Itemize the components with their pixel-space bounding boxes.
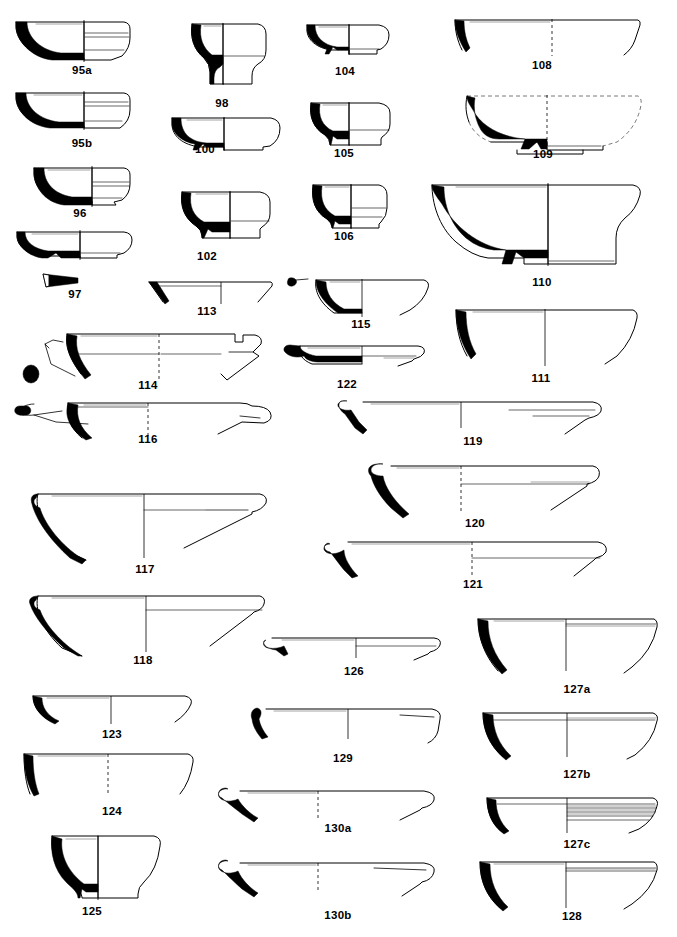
vessel-drawing-110	[428, 180, 644, 274]
vessel-drawing-105	[303, 100, 393, 152]
caption-95b: 95b	[52, 137, 112, 149]
caption-110: 110	[512, 276, 572, 288]
vessel-drawing-122	[276, 340, 428, 372]
caption-122: 122	[317, 378, 377, 390]
vessel-drawing-127a	[474, 613, 660, 679]
vessel-drawing-104	[303, 22, 391, 60]
caption-126: 126	[324, 665, 384, 677]
vessel-drawing-128	[474, 856, 660, 912]
vessel-drawing-127b	[477, 707, 661, 763]
caption-119: 119	[443, 435, 503, 447]
caption-127b: 127b	[547, 768, 607, 780]
caption-128: 128	[542, 910, 602, 922]
pottery-plate: 95a 95b 96	[0, 0, 677, 937]
caption-109: 109	[513, 148, 573, 160]
caption-118: 118	[113, 654, 173, 666]
caption-121: 121	[443, 578, 503, 590]
vessel-drawing-118	[14, 590, 268, 656]
vessel-drawing-102	[172, 188, 274, 246]
vessel-drawing-130a	[214, 784, 440, 824]
caption-114: 114	[118, 379, 178, 391]
caption-111: 111	[511, 372, 571, 384]
vessel-drawing-129	[248, 703, 448, 747]
vessel-drawing-97	[14, 228, 134, 264]
vessel-drawing-130b	[214, 856, 440, 900]
caption-104: 104	[315, 65, 375, 77]
caption-127a: 127a	[547, 683, 607, 695]
vessel-drawing-106	[305, 182, 391, 234]
vessel-drawing-98	[176, 20, 272, 90]
vessel-drawing-113	[145, 278, 275, 306]
vessel-drawing-125	[44, 830, 166, 902]
vessel-drawing-95a	[14, 16, 132, 66]
vessel-drawing-115	[282, 275, 432, 321]
vessel-drawing-127c	[477, 793, 661, 837]
vessel-drawing-119	[327, 396, 605, 438]
caption-100: 100	[175, 143, 235, 155]
vessel-drawing-124	[18, 748, 198, 800]
caption-97: 97	[45, 288, 105, 300]
caption-115: 115	[331, 318, 391, 330]
caption-130a: 130a	[308, 822, 368, 834]
caption-96: 96	[50, 207, 110, 219]
caption-105: 105	[314, 147, 374, 159]
vessel-drawing-109	[455, 92, 645, 154]
caption-124: 124	[82, 805, 142, 817]
vessel-drawing-111	[453, 306, 639, 368]
caption-117: 117	[115, 563, 175, 575]
vessel-drawing-114	[15, 330, 265, 384]
caption-130b: 130b	[308, 909, 368, 921]
vessel-drawing-117	[16, 488, 272, 564]
caption-113: 113	[177, 305, 237, 317]
vessel-drawing-123	[25, 690, 195, 726]
vessel-drawing-96	[30, 164, 132, 210]
caption-108: 108	[512, 59, 572, 71]
vessel-drawing-108	[452, 16, 642, 60]
caption-116: 116	[118, 433, 178, 445]
vessel-drawing-95b	[14, 88, 132, 136]
caption-123: 123	[82, 728, 142, 740]
caption-120: 120	[445, 517, 505, 529]
vessel-drawing-126	[262, 632, 444, 662]
caption-95a: 95a	[52, 64, 112, 76]
caption-127c: 127c	[547, 838, 607, 850]
vessel-drawing-120	[353, 460, 603, 518]
caption-125: 125	[62, 905, 122, 917]
caption-106: 106	[314, 230, 374, 242]
caption-129: 129	[313, 752, 373, 764]
caption-98: 98	[192, 97, 252, 109]
caption-102: 102	[177, 250, 237, 262]
vessel-drawing-121	[320, 536, 610, 580]
